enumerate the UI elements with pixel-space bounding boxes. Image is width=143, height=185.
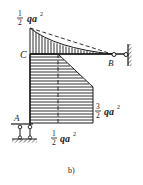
svg-text:qa: qa bbox=[27, 13, 37, 24]
beam-moment-region bbox=[30, 28, 112, 54]
svg-text:2: 2 bbox=[73, 131, 76, 137]
annotation-bottom-moment: 1 2 qa 2 bbox=[51, 129, 76, 147]
label-a: A bbox=[13, 113, 20, 123]
svg-text:qa: qa bbox=[104, 106, 114, 117]
svg-text:2: 2 bbox=[18, 18, 22, 27]
svg-text:1: 1 bbox=[18, 9, 22, 18]
annotation-right-moment: 3 2 qa 2 bbox=[95, 102, 120, 120]
svg-text:2: 2 bbox=[40, 11, 43, 17]
svg-text:2: 2 bbox=[52, 138, 56, 147]
wall-support bbox=[124, 44, 132, 66]
hinge-b bbox=[112, 53, 116, 57]
svg-text:2: 2 bbox=[96, 111, 100, 120]
svg-text:1: 1 bbox=[52, 129, 56, 138]
svg-text:3: 3 bbox=[96, 102, 100, 111]
column-moment-region bbox=[30, 54, 93, 123]
annotation-top-moment: 1 2 qa 2 bbox=[17, 9, 43, 27]
svg-text:qa: qa bbox=[60, 133, 70, 144]
label-c: C bbox=[20, 49, 27, 60]
support-a bbox=[11, 124, 37, 143]
bending-moment-diagram: C B A 1 2 qa 2 3 2 qa 2 1 2 qa 2 b) bbox=[0, 0, 143, 185]
label-b: B bbox=[108, 58, 114, 68]
figure-caption: b) bbox=[68, 166, 75, 175]
svg-text:2: 2 bbox=[117, 104, 120, 110]
